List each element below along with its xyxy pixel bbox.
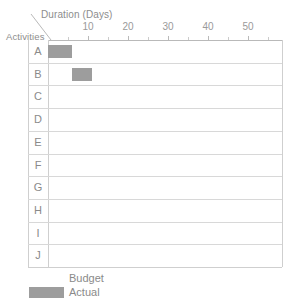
row-separator — [28, 85, 282, 86]
row-separator — [28, 176, 282, 177]
grid-border-right — [282, 40, 283, 267]
row-label-c: C — [28, 85, 48, 108]
x-axis-tick-label: 50 — [242, 21, 253, 32]
legend-label-budget: Budget — [69, 272, 104, 285]
legend: Budget Actual — [29, 272, 169, 300]
row-separator — [28, 199, 282, 200]
gantt-chart: Duration (Days) Activities 1020304050 AB… — [0, 0, 301, 304]
row-label-i: I — [28, 222, 48, 245]
bar-actual-b — [72, 68, 92, 81]
chart-grid: ABCDEFGHIJ — [28, 40, 282, 267]
legend-item-budget: Budget — [29, 272, 169, 285]
x-axis-title: Duration (Days) — [41, 9, 113, 20]
legend-swatch-actual — [29, 287, 64, 298]
legend-swatch-budget — [29, 273, 64, 284]
grid-border-bottom — [28, 267, 282, 268]
row-label-f: F — [28, 154, 48, 177]
row-label-j: J — [28, 244, 48, 267]
row-label-a: A — [28, 40, 48, 63]
row-separator — [28, 131, 282, 132]
x-axis-tick-label: 40 — [202, 21, 213, 32]
x-axis-tick-label: 30 — [162, 21, 173, 32]
row-label-b: B — [28, 63, 48, 86]
row-separator — [28, 244, 282, 245]
row-label-h: H — [28, 199, 48, 222]
row-label-g: G — [28, 176, 48, 199]
bar-actual-a — [48, 45, 72, 58]
row-separator — [28, 108, 282, 109]
row-separator — [28, 63, 282, 64]
legend-label-actual: Actual — [69, 286, 100, 299]
row-separator — [28, 154, 282, 155]
legend-item-actual: Actual — [29, 286, 169, 299]
x-axis-tick-label: 10 — [82, 21, 93, 32]
row-label-d: D — [28, 108, 48, 131]
row-label-e: E — [28, 131, 48, 154]
x-axis-tick-label: 20 — [122, 21, 133, 32]
row-separator — [28, 222, 282, 223]
